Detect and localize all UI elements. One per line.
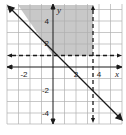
y-axis-arrow-down bbox=[51, 119, 55, 124]
y-tick-4: 4 bbox=[45, 17, 50, 26]
x-tick-neg2: -2 bbox=[20, 70, 28, 79]
x-axis-label: x bbox=[114, 69, 119, 79]
y-tick-neg2: -2 bbox=[42, 86, 50, 95]
y-axis-arrow-up bbox=[51, 4, 55, 9]
y-axis-label: y bbox=[56, 5, 61, 15]
x-tick-4: 4 bbox=[97, 70, 102, 79]
y-tick-neg4: -4 bbox=[42, 109, 50, 118]
graph-canvas: -2 2 4 x 4 2 -2 -4 y bbox=[0, 0, 126, 135]
y-tick-2: 2 bbox=[45, 39, 50, 48]
x-axis-arrow-left bbox=[7, 65, 12, 69]
x-tick-2: 2 bbox=[74, 70, 79, 79]
shaded-region bbox=[18, 5, 93, 56]
